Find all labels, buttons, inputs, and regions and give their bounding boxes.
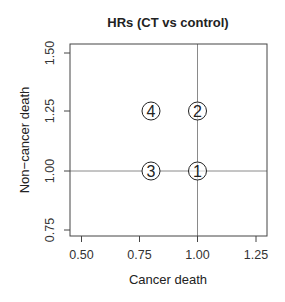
data-point-4: 4	[142, 102, 160, 120]
chart-title: HRs (CT vs control)	[107, 15, 228, 30]
svg-text:4: 4	[147, 103, 156, 120]
x-axis-label: Cancer death	[129, 272, 207, 287]
y-axis-label: Non−cancer death	[17, 87, 32, 194]
svg-text:1: 1	[193, 163, 202, 180]
x-tick-label: 1.00	[185, 248, 209, 262]
y-tick-label: 1.25	[43, 99, 57, 123]
chart: HRs (CT vs control) 0.50 0.75 1.00 1.25 …	[0, 0, 285, 302]
plot-frame	[70, 44, 267, 236]
y-tick-label: 1.50	[43, 41, 57, 65]
data-point-1: 1	[189, 162, 207, 180]
y-tick-label: 1.00	[43, 159, 57, 183]
x-axis	[82, 236, 257, 242]
data-point-3: 3	[142, 162, 160, 180]
svg-text:3: 3	[147, 163, 156, 180]
x-tick-label: 0.75	[127, 248, 151, 262]
y-tick-label: 0.75	[43, 218, 57, 242]
y-axis	[64, 53, 70, 230]
x-tick-label: 0.50	[69, 248, 93, 262]
svg-text:2: 2	[193, 103, 202, 120]
data-point-2: 2	[189, 102, 207, 120]
x-tick-label: 1.25	[244, 248, 268, 262]
